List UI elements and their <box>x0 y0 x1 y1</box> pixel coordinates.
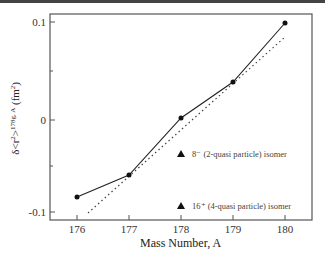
svg-text:180: 180 <box>277 223 294 235</box>
ytick-0.1: 0.1 <box>32 16 46 28</box>
svg-text:179: 179 <box>225 223 242 235</box>
fit-line <box>88 37 285 213</box>
y-axis-label: δ<r2>178g, A (fm2) <box>9 63 22 173</box>
x-axis-label: Mass Number, A <box>140 236 221 251</box>
data-line <box>77 23 285 197</box>
svg-text:177: 177 <box>121 223 138 235</box>
ytick--0.1: -0.1 <box>29 206 46 218</box>
isomer-8-marker <box>177 150 185 157</box>
legend-8: 8⁻ (2-quasi particle) isomer <box>192 149 287 159</box>
svg-text:178: 178 <box>173 223 190 235</box>
svg-text:176: 176 <box>69 223 86 235</box>
isomer-16-marker <box>177 202 185 209</box>
ytick-0: 0 <box>41 114 47 126</box>
legend-16: 16⁺ (4-quasi particle) isomer <box>192 201 291 211</box>
chart: 0.1 0 -0.1 176 177 178 179 180 8⁻ (2-qua… <box>0 0 325 256</box>
